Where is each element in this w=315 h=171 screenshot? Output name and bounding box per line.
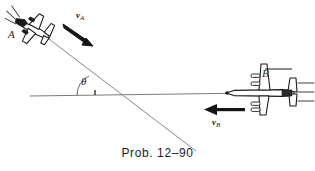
airplane-b-tail-shade [282,90,292,96]
velocity-b-arrow [204,104,245,115]
airplane-b [225,64,314,115]
flight-path-line-a [45,36,196,151]
velocity-b-subscript: B [216,121,220,129]
airplane-b-motion-lines [298,83,314,101]
reference-lines [30,36,253,151]
horizontal-reference-line [30,93,253,96]
theta-angle-label: θ [81,76,86,87]
airplane-b-label: B [262,68,269,79]
velocity-a-subscript: A [80,14,84,22]
velocity-b-label: vB [212,118,220,129]
airplane-b-wing-lower [259,96,269,115]
velocity-a-arrow [63,24,93,46]
figure-container: A B vA vB θ Prob. 12–90 [0,0,315,171]
airplane-b-nose [225,91,229,95]
airplane-a [0,0,57,51]
figure-caption: Prob. 12–90 [0,146,315,160]
velocity-a-label: vA [76,11,84,22]
airplane-a-label: A [8,29,15,40]
